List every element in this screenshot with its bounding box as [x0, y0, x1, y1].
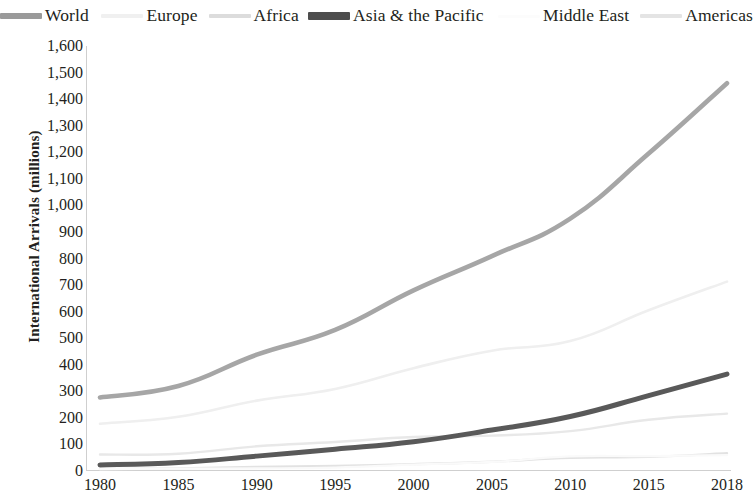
- y-axis-tick-label: 400: [59, 357, 83, 373]
- y-axis-tick-label: 1,500: [47, 65, 83, 81]
- legend-item-label: Americas: [685, 7, 753, 25]
- legend-swatch-icon: [0, 13, 42, 19]
- series-line-asia-the-pacific: [100, 374, 727, 465]
- legend-swatch-icon: [498, 15, 540, 18]
- legend-item-label: Middle East: [543, 7, 629, 25]
- legend-swatch-icon: [209, 14, 251, 18]
- x-axis-tick-label: 2015: [633, 477, 665, 493]
- legend-swatch-icon: [308, 12, 350, 20]
- y-axis-tick-labels: 1,6001,5001,4001,3001,2001,1001,00090080…: [28, 40, 83, 476]
- series-line-world: [100, 83, 727, 397]
- plot-area: [86, 46, 731, 471]
- legend-item-africa[interactable]: Africa: [209, 7, 299, 25]
- y-axis-tick-label: 900: [59, 224, 83, 240]
- legend-swatch-icon: [640, 14, 682, 18]
- y-axis-tick-label: 1,400: [47, 91, 83, 107]
- legend-item-label: Asia & the Pacific: [353, 7, 484, 25]
- international-arrivals-line-chart: WorldEuropeAfricaAsia & the PacificMiddl…: [0, 0, 753, 497]
- x-axis-tick-label: 1980: [84, 477, 116, 493]
- y-axis-tick-label: 300: [59, 383, 83, 399]
- y-axis-tick-label: 1,200: [47, 144, 83, 160]
- y-axis-tick-label: 100: [59, 436, 83, 452]
- y-axis-tick-label: 1,300: [47, 118, 83, 134]
- legend-item-label: Europe: [146, 7, 197, 25]
- legend-item-asia-the-pacific[interactable]: Asia & the Pacific: [308, 7, 484, 25]
- x-axis-tick-labels: 198019851990199520002005201020152018: [0, 473, 753, 497]
- y-axis-tick-label: 1,600: [47, 38, 83, 54]
- axis-lines: [86, 46, 731, 471]
- x-axis-tick-label: 2005: [476, 477, 508, 493]
- x-axis-tick-label: 1985: [162, 477, 194, 493]
- x-axis-tick-label: 2018: [711, 477, 743, 493]
- legend-item-europe[interactable]: Europe: [101, 7, 197, 25]
- y-axis-tick-label: 1,100: [47, 171, 83, 187]
- x-axis-tick-label: 1995: [319, 477, 351, 493]
- y-axis-tick-label: 800: [59, 251, 83, 267]
- x-axis-tick-label: 2000: [398, 477, 430, 493]
- y-axis-tick-label: 200: [59, 410, 83, 426]
- y-axis-tick-label: 500: [59, 330, 83, 346]
- series-lines: [100, 83, 727, 469]
- plot-svg: [86, 46, 731, 471]
- y-axis-tick-label: 700: [59, 277, 83, 293]
- legend-item-americas[interactable]: Americas: [640, 7, 753, 25]
- x-axis-tick-label: 2010: [554, 477, 586, 493]
- x-axis-tick-label: 1990: [241, 477, 273, 493]
- y-axis-tick-label: 600: [59, 304, 83, 320]
- legend-item-label: World: [45, 7, 89, 25]
- legend-swatch-icon: [101, 14, 143, 18]
- series-line-americas: [100, 414, 727, 455]
- y-axis-tick-label: 1,000: [47, 197, 83, 213]
- legend-item-world[interactable]: World: [0, 7, 89, 25]
- chart-legend: WorldEuropeAfricaAsia & the PacificMiddl…: [0, 0, 753, 32]
- legend-item-label: Africa: [254, 7, 299, 25]
- legend-item-middle-east[interactable]: Middle East: [498, 7, 629, 25]
